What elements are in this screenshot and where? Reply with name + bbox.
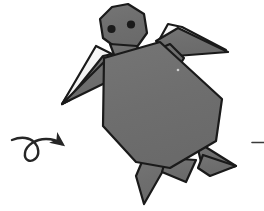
curl-arrow-path xyxy=(12,138,62,161)
shell-facet xyxy=(103,42,222,168)
eye-left xyxy=(107,25,115,33)
eye-right xyxy=(127,20,135,28)
shell xyxy=(103,42,222,168)
figure-canvas: Origami sea turtle line illustration Fol… xyxy=(0,0,264,211)
curl-arrow xyxy=(12,138,62,161)
origami-turtle-illustration xyxy=(0,0,264,211)
shell-highlight-speck xyxy=(177,69,180,72)
head-shape xyxy=(100,4,147,49)
